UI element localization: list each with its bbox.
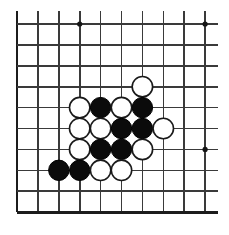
black-stone[interactable] [132,118,152,138]
white-stone[interactable] [90,160,110,180]
go-board-container [0,0,229,235]
star-point [203,21,208,26]
black-stone[interactable] [132,97,152,117]
star-point [203,147,208,152]
white-stone[interactable] [70,139,90,159]
go-board-canvas[interactable] [0,0,229,235]
white-stone[interactable] [70,97,90,117]
white-stone[interactable] [111,97,131,117]
white-stone[interactable] [153,118,173,138]
black-stone[interactable] [111,139,131,159]
black-stone[interactable] [90,139,110,159]
black-stone[interactable] [90,97,110,117]
white-stone[interactable] [132,139,152,159]
white-stone[interactable] [132,77,152,97]
black-stone[interactable] [49,160,69,180]
white-stone[interactable] [90,118,110,138]
white-stone[interactable] [70,118,90,138]
star-point [77,21,82,26]
black-stone[interactable] [111,118,131,138]
white-stone[interactable] [111,160,131,180]
black-stone[interactable] [70,160,90,180]
